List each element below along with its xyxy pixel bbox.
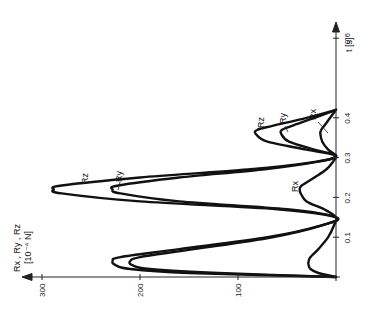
curve-rx	[300, 110, 337, 277]
time-axis-arrow-icon	[333, 22, 340, 32]
value-tick-label: 200	[136, 283, 145, 297]
annotation-rz-peak2: Rz	[80, 173, 90, 184]
curves	[52, 110, 338, 277]
axes	[22, 22, 340, 281]
time-tick-label: 0.4	[343, 112, 352, 124]
value-tick-label: 100	[234, 283, 243, 297]
value-tick-label: 300	[38, 283, 47, 297]
value-axis-label: Rx , Ry , Rz [10⁻⁴ N]	[12, 223, 33, 272]
force-time-chart: 1002003000.10.20.30.40.6 Rx , Ry , Rz [1…	[0, 0, 368, 320]
annotation-ry-peak2: Ry	[114, 171, 124, 182]
value-axis-label-line2: [10⁻⁴ N]	[23, 231, 33, 264]
time-axis-label: t [s]	[344, 37, 354, 52]
annotation-rx-peak3: Rx	[308, 109, 318, 120]
annotation-ry-peak3: Ry	[278, 113, 288, 124]
time-tick-label: 0.2	[343, 192, 352, 204]
time-tick-label: 0.3	[343, 152, 352, 164]
curve-rz	[52, 110, 338, 277]
value-axis-label-line1: Rx , Ry , Rz	[12, 223, 22, 272]
annotation-rx-trough: Rx	[290, 181, 300, 192]
annotation-rz-peak3: Rz	[256, 117, 266, 128]
time-tick-label: 0.1	[343, 232, 352, 244]
value-axis-arrow-icon	[22, 274, 32, 281]
curve-ry	[111, 110, 338, 277]
time-axis-label-text: t [s]	[344, 37, 354, 52]
